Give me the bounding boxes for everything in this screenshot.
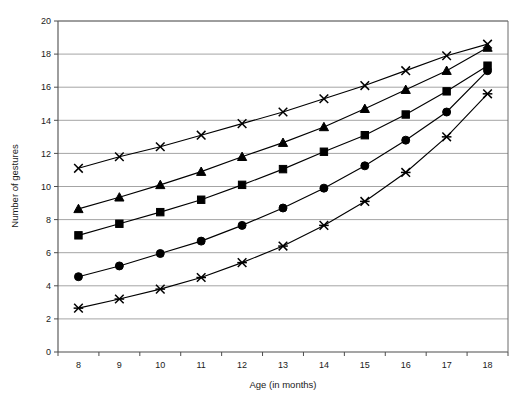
chart-figure: 89101112131415161718 02468101214161820 A… — [0, 0, 519, 400]
y-tick-label: 18 — [41, 49, 51, 59]
marker-circle — [361, 162, 369, 170]
marker-square — [238, 181, 245, 188]
marker-circle — [238, 221, 246, 229]
marker-circle — [484, 67, 492, 75]
marker-circle — [443, 108, 451, 116]
marker-x — [74, 164, 83, 173]
marker-circle — [279, 204, 287, 212]
marker-square — [157, 208, 164, 215]
marker-triangle — [197, 167, 206, 175]
x-tick-label: 14 — [319, 360, 329, 370]
marker-circle — [74, 273, 82, 281]
y-tick-label: 16 — [41, 82, 51, 92]
x-tick-label: 16 — [401, 360, 411, 370]
y-tick-label: 4 — [46, 281, 51, 291]
marker-star — [442, 133, 452, 142]
marker-square — [361, 131, 368, 138]
marker-square — [279, 165, 286, 172]
series-layer — [74, 40, 493, 313]
series-star — [74, 90, 493, 313]
marker-square — [443, 88, 450, 95]
marker-star — [115, 295, 125, 304]
marker-x — [197, 131, 206, 140]
x-tick-label: 10 — [155, 360, 165, 370]
x-tick-label: 18 — [483, 360, 493, 370]
marker-star — [196, 273, 206, 282]
marker-circle — [402, 136, 410, 144]
marker-square — [116, 220, 123, 227]
series-line — [78, 47, 487, 208]
marker-circle — [156, 250, 164, 258]
marker-x — [156, 142, 165, 151]
marker-circle — [197, 237, 205, 245]
y-tick-label: 12 — [41, 149, 51, 159]
marker-triangle — [278, 138, 287, 146]
marker-triangle — [360, 104, 369, 112]
marker-star — [278, 242, 288, 251]
marker-x — [279, 108, 288, 117]
y-axis-tick-labels: 02468101214161820 — [41, 16, 51, 357]
marker-star — [319, 221, 329, 230]
y-tick-label: 6 — [46, 248, 51, 258]
y-tick-label: 8 — [46, 215, 51, 225]
y-axis-title: Number of gestures — [9, 144, 20, 228]
marker-x — [401, 66, 410, 75]
marker-square — [402, 111, 409, 118]
x-tick-label: 12 — [237, 360, 247, 370]
x-tick-label: 8 — [76, 360, 81, 370]
x-tick-label: 15 — [360, 360, 370, 370]
marker-x — [442, 51, 451, 60]
marker-star — [401, 168, 411, 177]
marker-square — [75, 232, 82, 239]
y-tick-label: 0 — [46, 347, 51, 357]
marker-x — [320, 94, 329, 103]
x-tick-label: 11 — [197, 360, 206, 370]
marker-square — [197, 196, 204, 203]
x-axis-ticks — [58, 352, 508, 356]
marker-triangle — [319, 122, 328, 130]
series-triangle — [74, 43, 492, 213]
marker-star — [360, 197, 370, 206]
x-tick-label: 13 — [278, 360, 288, 370]
marker-triangle — [156, 180, 165, 188]
y-tick-label: 20 — [41, 16, 51, 26]
marker-star — [74, 304, 84, 313]
marker-star — [237, 258, 247, 267]
x-axis-tick-labels: 89101112131415161718 — [76, 360, 493, 370]
marker-square — [320, 148, 327, 155]
y-tick-label: 2 — [46, 314, 51, 324]
y-tick-label: 10 — [41, 182, 51, 192]
marker-circle — [115, 262, 123, 270]
marker-circle — [320, 184, 328, 192]
marker-triangle — [442, 66, 451, 74]
marker-star — [483, 90, 493, 99]
series-circle — [74, 67, 491, 281]
marker-triangle — [401, 85, 410, 93]
marker-x — [361, 81, 370, 90]
y-tick-label: 14 — [41, 116, 51, 126]
y-axis-ticks — [54, 21, 58, 352]
x-tick-label: 9 — [117, 360, 122, 370]
line-chart-plot: 89101112131415161718 02468101214161820 A… — [0, 0, 519, 400]
x-tick-label: 17 — [442, 360, 452, 370]
series-line — [78, 44, 487, 168]
x-axis-title: Age (in months) — [249, 379, 316, 390]
